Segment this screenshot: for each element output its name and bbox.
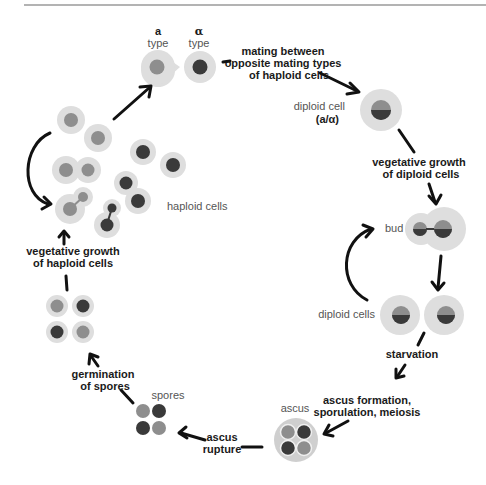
starvation-label: starvation (386, 348, 439, 360)
bud-to-diploids-arrow-icon (438, 256, 441, 288)
a-type-label: type (148, 37, 169, 49)
veg-haploid-label-line2: of haploid cells (33, 257, 113, 269)
spores-group (136, 404, 166, 435)
starvation-arrow-tail (418, 333, 424, 345)
veg-diploid-arrow-tail (399, 130, 414, 152)
veg-diploid-label-line1: vegetative growth (372, 156, 466, 168)
germinated-haploid-cells (46, 295, 94, 343)
a-symbol-label: a (155, 25, 162, 37)
diploid-cell-right (424, 295, 464, 335)
diploid-cell-label: diploid cell (294, 100, 345, 112)
yeast-life-cycle-diagram: a type α type mating between opposite ma… (0, 0, 486, 485)
mating-arrow-tail (223, 61, 230, 62)
spores-label: spores (151, 389, 185, 401)
bud-label: bud (385, 222, 403, 234)
alpha-type-cell (184, 51, 216, 83)
ascus-rupture-label-line1: ascus (206, 431, 237, 443)
mating-label-line3: of haploid cells (249, 69, 329, 81)
ascus-cell (274, 418, 318, 462)
mating-label-line1: mating between (241, 45, 324, 57)
diploid-cell-genotype-label: (a/α) (316, 113, 340, 125)
haploid-cycle-arrow-icon (28, 133, 50, 204)
veg-diploid-label-line2: of diploid cells (382, 168, 459, 180)
alpha-type-label: type (189, 37, 210, 49)
veg-haploid-label-line1: vegetative growth (26, 245, 120, 257)
ascus-formation-label-line1: ascus formation, (323, 394, 411, 406)
diploid-cycle-arrow-icon (346, 229, 371, 300)
mating-label-line2: opposite mating types (225, 57, 342, 69)
germination-label-line1: germination (72, 368, 135, 380)
budding-diploid-cell (405, 207, 466, 251)
ascus-rupture-label-line2: rupture (203, 443, 242, 455)
veg-haploid-arrow-tail (66, 276, 67, 290)
diploid-cell-left (380, 295, 420, 335)
mating-arrow-icon (320, 73, 357, 91)
germination-label-line2: of spores (80, 380, 130, 392)
diploid-cells-label: diploid cells (318, 308, 375, 320)
diploid-cell (360, 89, 402, 131)
ascus-formation-label-line2: sporulation, meiosis (314, 406, 421, 418)
ascus-label: ascus (281, 402, 310, 414)
haploid-cells-cluster (52, 106, 186, 238)
haploid-to-mating-arrow-icon (114, 88, 149, 119)
a-type-cell (141, 50, 180, 87)
haploid-cells-label: haploid cells (167, 200, 228, 212)
